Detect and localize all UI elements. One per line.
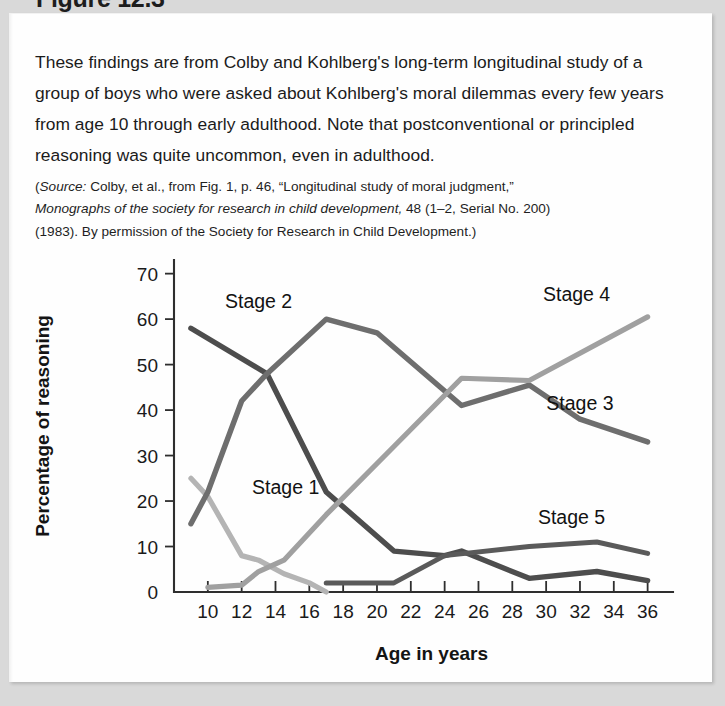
x-tick-label: 20 (366, 601, 387, 622)
y-axis-ticks: 010203040506070 (137, 264, 174, 603)
x-tick-label: 36 (637, 601, 658, 622)
y-axis-title-group: Percentage of reasoning (32, 315, 53, 537)
x-tick-label: 26 (468, 601, 489, 622)
y-tick-label: 70 (137, 264, 158, 285)
x-axis-title: Age in years (375, 643, 488, 664)
x-tick-label: 18 (333, 601, 354, 622)
series-label-stage-2: Stage 2 (225, 290, 292, 312)
source-label: Source: (40, 179, 87, 194)
x-tick-label: 28 (502, 601, 523, 622)
y-tick-label: 10 (137, 537, 158, 558)
series-label-stage-3: Stage 3 (546, 392, 613, 414)
y-axis-title: Percentage of reasoning (32, 315, 53, 537)
x-tick-label: 34 (603, 601, 625, 622)
series-label-stage-4: Stage 4 (543, 283, 610, 305)
source-journal-title: Monographs of the society for research i… (35, 201, 402, 216)
x-tick-label: 10 (197, 601, 218, 622)
y-tick-label: 60 (137, 309, 158, 330)
x-tick-label: 24 (434, 601, 456, 622)
figure-source-citation: (Source: Colby, et al., from Fig. 1, p. … (35, 176, 695, 244)
line-chart: Percentage of reasoning 010203040506070 … (27, 242, 699, 672)
x-tick-label: 32 (569, 601, 590, 622)
source-line2-rest: 48 (1–2, Serial No. 200) (402, 201, 550, 216)
x-tick-label: 30 (536, 601, 557, 622)
source-line3: (1983). By permission of the Society for… (35, 224, 476, 239)
x-tick-label: 22 (400, 601, 421, 622)
y-tick-label: 50 (137, 355, 158, 376)
figure-body-paragraph: These findings are from Colby and Kohlbe… (35, 47, 685, 171)
figure-heading: Figure 12.3 (36, 0, 165, 13)
source-line1-rest: Colby, et al., from Fig. 1, p. 46, “Long… (86, 179, 513, 194)
y-tick-label: 30 (137, 446, 158, 467)
y-tick-label: 40 (137, 400, 158, 421)
x-tick-label: 14 (265, 601, 287, 622)
scanned-figure-page: Figure 12.3 These findings are from Colb… (0, 0, 725, 706)
chart-canvas: Percentage of reasoning 010203040506070 … (27, 242, 699, 672)
series-label-stage-5: Stage 5 (538, 506, 605, 528)
x-axis-title-group: Age in years (375, 643, 488, 664)
x-tick-label: 16 (299, 601, 320, 622)
y-tick-label: 0 (147, 582, 158, 603)
figure-content-card: These findings are from Colby and Kohlbe… (9, 13, 712, 682)
x-axis-ticks: 1012141618202224262830323436 (197, 581, 658, 622)
x-tick-label: 12 (231, 601, 252, 622)
series-line-stage-4 (208, 317, 648, 588)
series-label-stage-1: Stage 1 (252, 476, 319, 498)
y-tick-label: 20 (137, 491, 158, 512)
chart-series-lines (191, 317, 648, 592)
